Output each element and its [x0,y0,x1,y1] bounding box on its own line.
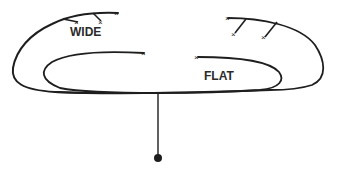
x-marker: × [141,49,146,58]
flat-loop-left [44,52,158,93]
right-branch-tick-1 [235,19,246,33]
x-marker: × [231,30,236,39]
label-flat: FLAT [204,69,234,83]
wire-diagram: × × × × × × × × WIDE FLAT [0,0,339,172]
x-marker: × [225,14,230,23]
label-wide: WIDE [70,25,101,39]
right-loop [228,18,323,90]
terminal-dot [154,154,162,162]
x-marker: × [114,9,119,18]
x-marker: × [194,53,199,62]
right-branch-tick-2 [265,22,277,37]
x-marker: × [261,33,266,42]
